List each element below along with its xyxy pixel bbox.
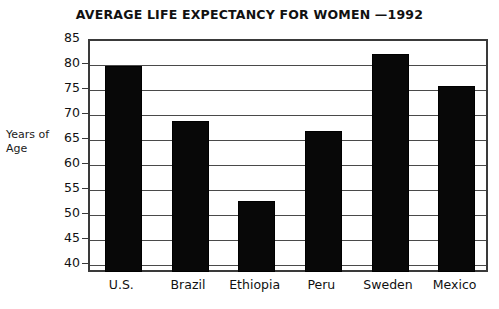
y-axis-tick-label: 85 bbox=[44, 32, 80, 44]
x-axis-tick-label: Mexico bbox=[421, 277, 488, 292]
x-axis-tick-label: Brazil bbox=[155, 277, 222, 292]
y-axis-tick-label: 45 bbox=[44, 232, 80, 244]
y-axis-tick-label: 50 bbox=[44, 207, 80, 219]
y-axis-tick-label: 70 bbox=[44, 107, 80, 119]
bar bbox=[172, 121, 209, 272]
y-axis-tick-label: 75 bbox=[44, 82, 80, 94]
y-axis-tick-label: 80 bbox=[44, 57, 80, 69]
x-axis-tick-label: U.S. bbox=[88, 277, 155, 292]
gridline bbox=[90, 265, 486, 266]
gridline bbox=[90, 65, 486, 66]
y-axis-tick-label: 60 bbox=[44, 157, 80, 169]
bar bbox=[372, 54, 409, 273]
bar bbox=[305, 131, 342, 272]
gridline bbox=[90, 190, 486, 191]
gridline bbox=[90, 115, 486, 116]
y-axis-tick-label: 65 bbox=[44, 132, 80, 144]
y-axis-tick-label: 55 bbox=[44, 182, 80, 194]
x-axis-tick-label: Peru bbox=[288, 277, 355, 292]
bar bbox=[438, 86, 475, 272]
gridline bbox=[90, 240, 486, 241]
plot-area bbox=[88, 39, 488, 272]
bar bbox=[105, 66, 142, 272]
gridline bbox=[90, 215, 486, 216]
gridline bbox=[90, 165, 486, 166]
gridline bbox=[90, 140, 486, 141]
y-axis-tick-label: 40 bbox=[44, 257, 80, 269]
bar-chart: AVERAGE LIFE EXPECTANCY FOR WOMEN —1992 … bbox=[0, 0, 499, 309]
x-axis-tick-label: Sweden bbox=[355, 277, 422, 292]
x-axis-tick-label: Ethiopia bbox=[221, 277, 288, 292]
chart-title: AVERAGE LIFE EXPECTANCY FOR WOMEN —1992 bbox=[0, 7, 499, 22]
bar bbox=[238, 201, 275, 272]
gridline bbox=[90, 90, 486, 91]
